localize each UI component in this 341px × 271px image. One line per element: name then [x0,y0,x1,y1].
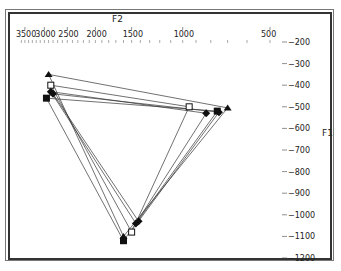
triangle-lines [46,74,227,240]
y-tick-label: −300 [288,60,310,69]
data-markers [43,71,232,244]
x-tick-label: 500 [261,30,276,39]
x-tick-label: 1500 [123,30,143,39]
y-tick-label: −800 [288,168,310,177]
filled-square-marker [120,237,127,244]
y-tick-label: −1200 [288,254,315,263]
open-square-marker [129,229,135,235]
x-tick-label: 1000 [174,30,194,39]
x-tick-label: 2500 [58,30,78,39]
y-tick-label: −400 [288,81,310,90]
open-square-marker [48,82,54,88]
x-tick-label: 2000 [86,30,106,39]
filled-square-marker [43,95,50,102]
y-tick-label: −700 [288,146,310,155]
vowel-triangle-plot: F2 F1 350030002500200015001000500 −200−3… [0,0,341,271]
x-tick-label: 3000 [35,30,55,39]
vowel-triangle [51,92,206,224]
y-tick-label: −200 [288,38,310,47]
y-tick-label: −600 [288,124,310,133]
y-tick-label: −900 [288,189,310,198]
x-tick-label: 3500 [16,30,36,39]
y-tick-label: −1000 [288,211,315,220]
y-tick-label: −1100 [288,232,315,241]
vowel-triangle [46,98,217,241]
x-axis-ticks: 350030002500200015001000500 [16,27,298,43]
open-square-marker [186,104,192,110]
y-axis-ticks: −200−300−400−500−600−700−800−900−1000−11… [282,38,315,263]
vowel-triangle [53,94,219,221]
x-axis-title: F2 [112,14,123,24]
y-tick-label: −500 [288,103,310,112]
filled-square-marker [214,108,221,115]
triangle-marker [45,71,53,77]
y-axis-title: F1 [322,128,333,138]
